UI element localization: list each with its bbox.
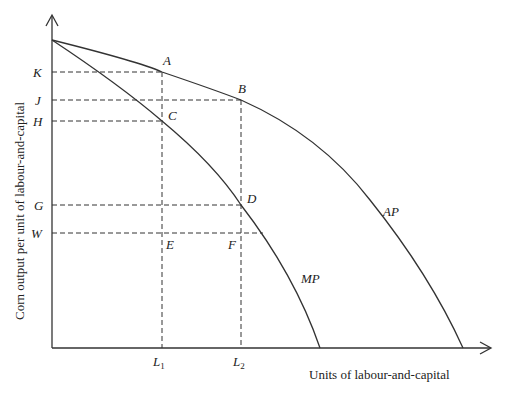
tick-H: H [32,114,43,129]
tick-L2: L2 [232,354,245,371]
point-C: C [168,108,177,123]
tick-G: G [34,198,44,213]
curves [52,40,463,348]
label-AP: AP [382,204,399,219]
tick-L1: L1 [152,354,165,371]
x-axis-title: Units of labour-and-capital [309,367,450,382]
dashed-guides [52,72,263,348]
diagram-canvas: K J H G W A B C D E F AP MP L1 L2 Units … [0,0,505,395]
point-E: E [165,237,174,252]
point-B: B [238,81,246,96]
tick-W: W [31,226,43,241]
point-F: F [227,237,237,252]
tick-K: K [32,65,43,80]
axes [46,15,491,354]
point-A: A [162,53,171,68]
ap-curve [52,40,463,348]
y-axis-title: Corn output per unit of labour-and-capit… [12,101,27,320]
mp-curve [52,40,320,348]
tick-J: J [35,93,42,108]
label-MP: MP [300,271,320,286]
point-D: D [246,191,257,206]
